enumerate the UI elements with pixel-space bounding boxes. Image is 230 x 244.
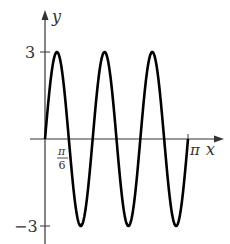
x-tick-label-pi-over-6: π 6 (57, 145, 68, 172)
x-tick-label-pi: π (189, 141, 201, 159)
sine-graph: y x 3 −3 π π 6 (0, 0, 230, 244)
y-axis-arrow-icon (42, 10, 49, 20)
y-axis-label: y (51, 7, 62, 26)
fraction-numerator: π (57, 145, 66, 158)
x-axis-arrow-icon (214, 136, 224, 143)
y-tick-label-3: 3 (25, 43, 35, 62)
y-tick-label-neg3: −3 (14, 217, 38, 236)
x-axis-label: x (206, 140, 215, 159)
fraction-denominator: 6 (59, 159, 66, 172)
